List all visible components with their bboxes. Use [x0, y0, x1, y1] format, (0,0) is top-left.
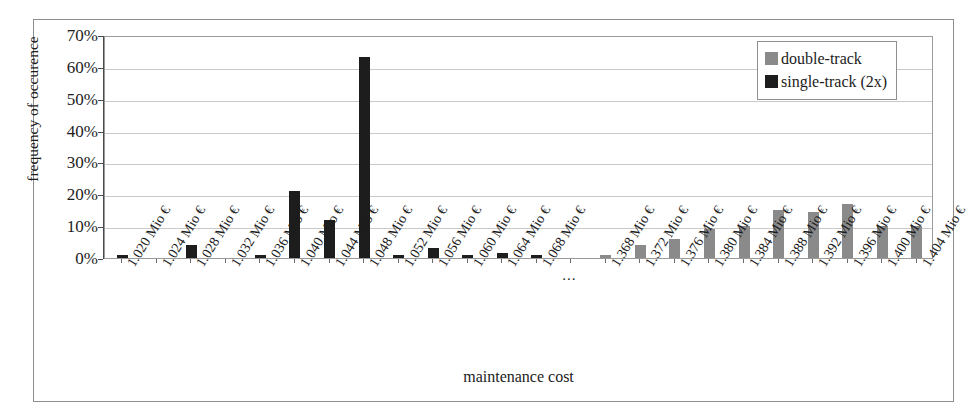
y-axis-tick-label: 70% — [38, 27, 98, 44]
x-axis-tick-mark — [259, 259, 260, 263]
x-axis-tick-labels: 1.020 Mio €1.024 Mio €1.028 Mio €1.032 M… — [104, 262, 933, 367]
y-axis-tick-mark — [98, 100, 103, 101]
y-axis-tick-label: 10% — [38, 218, 98, 235]
y-axis-tick-label: 50% — [38, 91, 98, 108]
x-axis-tick-mark — [708, 259, 709, 263]
y-axis-tick-mark — [98, 163, 103, 164]
legend-item-double-track: double-track — [765, 47, 887, 70]
x-axis-tick-mark — [225, 259, 226, 263]
legend-swatch-double-track-icon — [765, 52, 778, 65]
x-axis-tick-mark — [605, 259, 606, 263]
x-axis-tick-mark — [536, 259, 537, 263]
y-axis-tick-label: 40% — [38, 123, 98, 140]
x-axis-title: maintenance cost — [104, 368, 933, 386]
x-axis-tick-mark — [156, 259, 157, 263]
legend-label-double-track: double-track — [781, 51, 862, 67]
chart-legend: double-track single-track (2x) — [757, 41, 897, 100]
x-axis-tick-mark — [743, 259, 744, 263]
legend-item-single-track: single-track (2x) — [765, 70, 887, 93]
x-axis-tick-mark — [432, 259, 433, 263]
x-axis-tick-mark — [398, 259, 399, 263]
x-axis-tick-mark — [812, 259, 813, 263]
x-axis-tick-mark — [363, 259, 364, 263]
x-axis-tick-mark — [847, 259, 848, 263]
gridline — [105, 133, 932, 134]
chart-figure: frequency of occurence 70%60%50%40%30%20… — [0, 0, 973, 420]
x-axis-tick-mark — [190, 259, 191, 263]
gridline — [105, 196, 932, 197]
x-axis-tick-mark — [674, 259, 675, 263]
legend-label-single-track: single-track (2x) — [781, 74, 887, 90]
y-axis-tick-mark — [98, 195, 103, 196]
y-axis-tick-label: 30% — [38, 154, 98, 171]
x-axis-tick-mark — [916, 259, 917, 263]
x-axis-tick-mark — [639, 259, 640, 263]
y-axis-tick-mark — [98, 227, 103, 228]
gridline — [105, 101, 932, 102]
x-axis-break-label: ... — [562, 268, 576, 283]
y-axis-tick-label: 0% — [38, 250, 98, 267]
x-axis-tick-mark — [329, 259, 330, 263]
x-axis-tick-mark — [121, 259, 122, 263]
legend-swatch-single-track-icon — [765, 75, 778, 88]
x-axis-tick-mark — [467, 259, 468, 263]
y-axis-tick-mark — [98, 68, 103, 69]
y-axis-tick-mark — [98, 36, 103, 37]
y-axis-tick-mark — [98, 259, 103, 260]
y-axis-tick-label: 60% — [38, 59, 98, 76]
x-axis-tick-mark — [570, 259, 571, 263]
y-axis-tick-labels: 70%60%50%40%30%20%10%0% — [30, 0, 98, 420]
x-axis-tick-mark — [881, 259, 882, 263]
gridline — [105, 164, 932, 165]
y-axis-tick-label: 20% — [38, 186, 98, 203]
x-axis-tick-mark — [501, 259, 502, 263]
y-axis-tick-mark — [98, 132, 103, 133]
x-axis-tick-mark — [778, 259, 779, 263]
x-axis-tick-mark — [294, 259, 295, 263]
